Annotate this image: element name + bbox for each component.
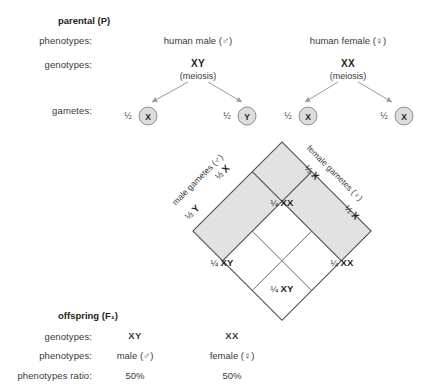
offspring-2-ratio: 50% — [222, 370, 241, 381]
offspring-1-phenotype: male (♂) — [117, 350, 154, 361]
offspring-section-title: offspring (F₁) — [58, 310, 118, 321]
punnett-cell-top: ¼ XX — [270, 197, 293, 208]
punnett-cell-bottom-fraction: ¼ — [270, 284, 278, 294]
punnett-cell-top-genotype: XX — [280, 197, 293, 208]
punnett-cell-right-genotype: XX — [340, 257, 353, 268]
offspring-2-phenotype: female (♀) — [210, 350, 255, 361]
offspring-1-ratio: 50% — [125, 370, 144, 381]
punnett-cell-right-fraction: ¼ — [330, 258, 338, 268]
punnett-cell-bottom: ¼ XY — [270, 283, 293, 294]
punnett-cell-top-fraction: ¼ — [270, 198, 278, 208]
punnett-cell-left-genotype: XY — [220, 257, 233, 268]
row-label-offspring-phenotypes: phenotypes: — [39, 350, 92, 361]
punnett-cell-right: ¼ XX — [330, 257, 353, 268]
offspring-1-genotype: XY — [128, 330, 141, 341]
punnett-cell-bottom-genotype: XY — [280, 283, 293, 294]
punnett-cell-left-fraction: ¼ — [210, 258, 218, 268]
punnett-cell-left: ¼ XY — [210, 257, 233, 268]
row-label-offspring-ratio: phenotypes ratio: — [17, 370, 92, 381]
offspring-2-genotype: XX — [225, 330, 238, 341]
row-label-offspring-genotypes: genotypes: — [45, 331, 92, 342]
